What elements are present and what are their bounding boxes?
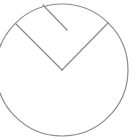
diagram-background: [0, 0, 135, 138]
circle-sector-diagram: [0, 0, 135, 138]
